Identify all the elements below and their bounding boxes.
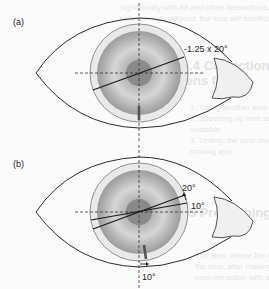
- arrow-head-icon: [146, 262, 149, 266]
- panel-a: (a) -1.25 x 20°: [13, 3, 253, 141]
- panel-b: (b) 20° 10° 10°: [13, 145, 253, 289]
- original-axis-label: 10°: [191, 201, 205, 211]
- rotated-axis-label: 20°: [182, 183, 196, 193]
- caruncle-shape: [212, 58, 253, 99]
- panel-b-label: (b): [13, 159, 24, 169]
- panel-a-label: (a): [13, 17, 24, 27]
- toric-lens-diagram: (a) -1.25 x 20° (b): [0, 0, 269, 289]
- axis-annotation: -1.25 x 20°: [184, 44, 228, 54]
- marker-rotation-label: 10°: [142, 272, 156, 282]
- caruncle-shape: [212, 197, 253, 238]
